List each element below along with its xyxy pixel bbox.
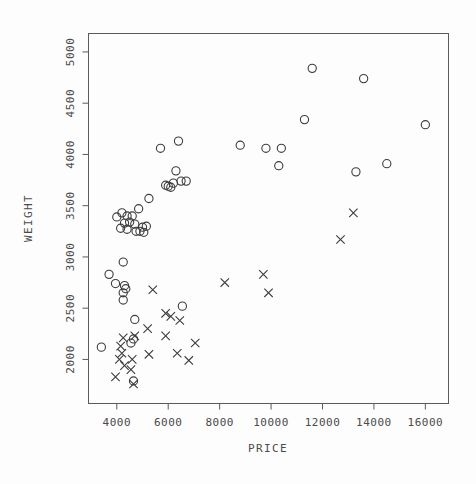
x-tick-label: 4000 [103,416,132,429]
y-tick-label: 5000 [64,38,77,67]
x-axis-title: PRICE [248,442,288,455]
y-tick-label: 4500 [64,89,77,118]
scatter-plot-figure: 2000250030003500400045005000 40006000800… [0,0,476,484]
plot-canvas: 2000250030003500400045005000 40006000800… [0,0,476,484]
x-tick-label: 6000 [154,416,183,429]
x-tick-label: 16000 [408,416,444,429]
y-tick-label: 2500 [64,294,77,323]
y-tick-label: 4000 [64,140,77,169]
x-tick-label: 14000 [356,416,392,429]
x-tick-label: 12000 [305,416,341,429]
y-tick-label: 3500 [64,191,77,220]
y-tick-label: 3000 [64,243,77,272]
x-tick-label: 8000 [205,416,234,429]
y-axis-title: WEIGHT [22,194,35,242]
x-tick-label: 10000 [253,416,289,429]
y-tick-label: 2000 [64,345,77,374]
figure-background [0,0,476,484]
